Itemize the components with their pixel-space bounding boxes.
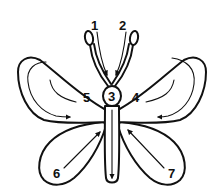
- right-antenna: [112, 30, 139, 86]
- label-2: 2: [119, 18, 126, 33]
- label-3: 3: [108, 89, 115, 104]
- lower-left-wing: [39, 122, 106, 185]
- butterfly-diagram: 1 2 3 4 5 6 7: [0, 0, 218, 193]
- label-5: 5: [83, 90, 90, 105]
- label-7: 7: [168, 166, 175, 181]
- upper-right-wing: [116, 58, 206, 123]
- label-1: 1: [91, 18, 98, 33]
- label-4: 4: [132, 90, 140, 105]
- label-6: 6: [53, 166, 60, 181]
- left-antenna: [84, 30, 111, 86]
- upper-left-wing: [18, 58, 108, 123]
